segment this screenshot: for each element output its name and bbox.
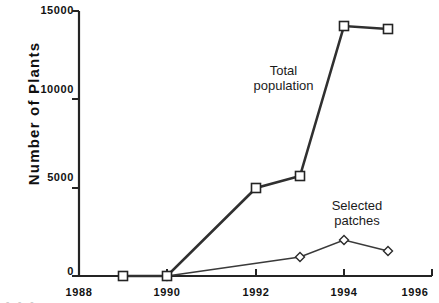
data-point-total-1994: [340, 22, 349, 31]
data-point-total-1995: [384, 25, 393, 34]
annotation-selected-patches-line1: Selected: [304, 198, 410, 213]
annotation-total-population: Total population: [236, 63, 331, 93]
data-point-total-1989: [119, 272, 128, 281]
annotation-selected-patches: Selected patches: [304, 198, 410, 228]
data-point-selected-1994: [340, 236, 349, 245]
chart-figure: Number of Plants 15000 10000 5000 0 1988…: [0, 0, 439, 303]
plot-area: [0, 0, 439, 303]
series-markers-selected-patches: [163, 236, 393, 281]
data-point-selected-1995: [384, 247, 393, 256]
annotation-selected-patches-line2: patches: [304, 213, 410, 228]
data-point-total-1992: [252, 184, 261, 193]
data-point-total-1993: [296, 172, 305, 181]
data-point-total-1990: [163, 272, 172, 281]
bottom-edge-artifact: - - -: [6, 296, 37, 303]
data-point-selected-1993: [296, 253, 305, 262]
annotation-total-population-line2: population: [236, 78, 331, 93]
annotation-total-population-line1: Total: [236, 63, 331, 78]
series-line-selected-patches: [167, 240, 388, 276]
